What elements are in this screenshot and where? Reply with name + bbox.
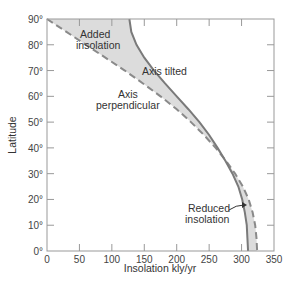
y-tick-label: 20° bbox=[28, 194, 43, 205]
y-tick-label: 70° bbox=[28, 66, 43, 77]
y-tick-label: 40° bbox=[28, 143, 43, 154]
insolation-latitude-chart: 050100150200250300350 0°10°20°30°40°50°6… bbox=[0, 0, 296, 286]
plot-frame bbox=[47, 19, 274, 251]
y-tick-label: 50° bbox=[28, 117, 43, 128]
x-tick-label: 350 bbox=[266, 254, 283, 265]
y-tick-label: 80° bbox=[28, 40, 43, 51]
x-tick-label: 250 bbox=[201, 254, 218, 265]
annotation-added-line2: insolation bbox=[76, 39, 121, 51]
x-tick-label: 0 bbox=[44, 254, 50, 265]
x-tick-label: 50 bbox=[74, 254, 86, 265]
chart-canvas: 050100150200250300350 0°10°20°30°40°50°6… bbox=[0, 0, 296, 286]
x-tick-label: 100 bbox=[104, 254, 121, 265]
y-axis-title: Latitude bbox=[6, 116, 18, 154]
x-tick-label: 300 bbox=[233, 254, 250, 265]
y-tick-label: 60° bbox=[28, 91, 43, 102]
y-tick-label: 90° bbox=[28, 14, 43, 25]
y-tick-label: 0° bbox=[33, 246, 43, 257]
y-axis-ticks: 0°10°20°30°40°50°60°70°80°90° bbox=[28, 14, 274, 257]
y-tick-label: 10° bbox=[28, 220, 43, 231]
annotation-reduced-line2: insolation bbox=[185, 213, 230, 225]
annotation-perp-line2: perpendicular bbox=[96, 99, 160, 111]
x-axis-title: Insolation kly/yr bbox=[124, 262, 197, 274]
reduced-arrow bbox=[229, 205, 244, 210]
annotation-axis-tilted: Axis tilted bbox=[142, 65, 187, 77]
y-tick-label: 30° bbox=[28, 169, 43, 180]
